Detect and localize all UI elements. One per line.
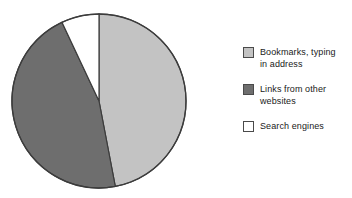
legend-item-links[interactable]: Links from otherwebsites bbox=[243, 83, 352, 107]
chart-legend: Bookmarks, typingin address Links from o… bbox=[243, 46, 352, 145]
legend-swatch-links-icon bbox=[243, 84, 254, 95]
pie-slice-bookmarks[interactable] bbox=[99, 14, 186, 186]
pie-slices bbox=[12, 14, 186, 188]
legend-item-search-engines[interactable]: Search engines bbox=[243, 120, 352, 132]
legend-label-bookmarks: Bookmarks, typingin address bbox=[260, 46, 336, 70]
legend-label-links: Links from otherwebsites bbox=[260, 83, 326, 107]
legend-swatch-search-icon bbox=[243, 121, 254, 132]
legend-label-search-engines: Search engines bbox=[260, 120, 324, 132]
legend-swatch-bookmarks-icon bbox=[243, 47, 254, 58]
pie-chart-figure: Bookmarks, typingin address Links from o… bbox=[0, 0, 352, 198]
legend-item-bookmarks[interactable]: Bookmarks, typingin address bbox=[243, 46, 352, 70]
pie-chart-graphic bbox=[0, 0, 200, 198]
